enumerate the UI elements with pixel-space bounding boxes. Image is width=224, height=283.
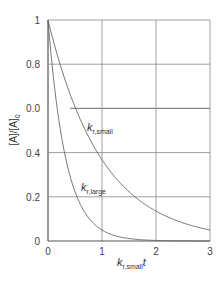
decay-chart: 012300.20.40.00.81 kr,small kr,large kr,… [0, 0, 224, 283]
x-axis-label: kr,smallt [117, 256, 147, 270]
grid-lines [48, 20, 210, 241]
y-tick-label: 0 [34, 236, 40, 247]
curve-label-small: kr,small [87, 121, 113, 135]
y-tick-label: 1 [34, 15, 40, 26]
curves [48, 20, 210, 241]
y-axis-label: [A]/[A]0 [8, 114, 21, 145]
y-tick-label: 0.8 [26, 59, 40, 70]
x-tick-label: 3 [207, 246, 213, 257]
x-tick-label: 2 [153, 246, 159, 257]
curve-k-large [48, 20, 210, 241]
x-tick-label: 0 [45, 246, 51, 257]
curve-k-small [48, 20, 210, 230]
tick-labels: 012300.20.40.00.81 [26, 15, 213, 257]
y-tick-label: 0.4 [26, 148, 40, 159]
y-tick-label: 0.0 [26, 103, 40, 114]
x-tick-label: 1 [99, 246, 105, 257]
y-tick-label: 0.2 [26, 192, 40, 203]
